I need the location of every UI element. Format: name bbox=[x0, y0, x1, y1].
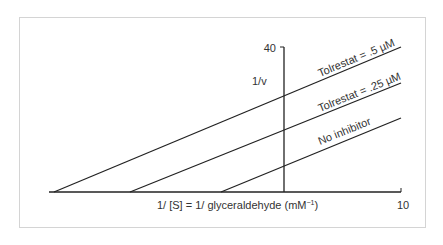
x-tick-label: 10 bbox=[397, 199, 409, 211]
line-tolrestat-05 bbox=[54, 47, 401, 192]
line-tolrestat-025 bbox=[130, 83, 401, 192]
y-axis-label: 1/v bbox=[252, 75, 267, 87]
line-label-tolrestat-05: Tolrestat = .5 µM bbox=[316, 36, 396, 79]
lineweaver-burk-plot: 40 10 1/v 1/ [S] = 1/ glyceraldehyde (mM… bbox=[0, 0, 443, 245]
line-label-no-inhibitor: No inhibitor bbox=[316, 115, 372, 147]
line-no-inhibitor bbox=[221, 118, 401, 192]
x-axis-label: 1/ [S] = 1/ glyceraldehyde (mM−1) bbox=[157, 199, 318, 211]
y-tick-label: 40 bbox=[264, 42, 276, 54]
